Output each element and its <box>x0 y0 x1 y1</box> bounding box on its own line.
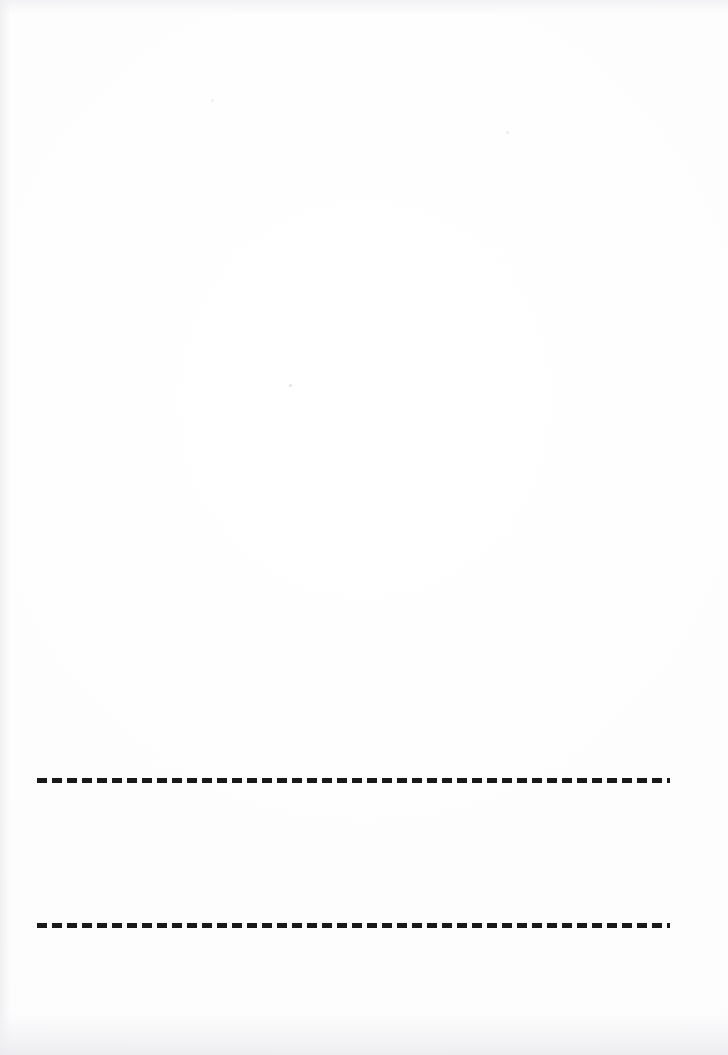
lower-dashed-rule-ink <box>37 923 670 928</box>
page-background <box>0 0 728 1055</box>
upper-dashed-rule-ink <box>37 778 670 783</box>
scanned-page <box>0 0 728 1055</box>
upper-dashed-rule <box>37 778 670 783</box>
lower-dashed-rule <box>37 923 670 928</box>
